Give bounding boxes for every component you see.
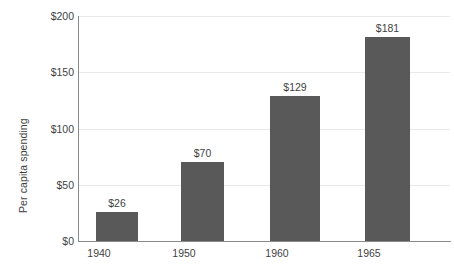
y-axis-line xyxy=(78,16,79,242)
bar-1950 xyxy=(181,162,224,241)
x-tick-label-1960: 1960 xyxy=(243,247,311,259)
y-tick-label-150: $150 xyxy=(28,67,74,78)
y-tick-label-100: $100 xyxy=(28,124,74,135)
x-tick-label-1965: 1965 xyxy=(335,247,403,259)
bar-1940 xyxy=(96,212,138,241)
x-tick-label-1950: 1950 xyxy=(150,247,218,259)
x-tick-label-1940: 1940 xyxy=(65,247,133,259)
gridline-200 xyxy=(78,16,450,17)
y-tick-label-0: $0 xyxy=(28,236,74,247)
plot-area: $26 $70 $129 $181 xyxy=(78,16,450,241)
y-axis-tick-labels: $200 $150 $100 $50 $0 xyxy=(28,0,74,277)
bar-label-1940: $26 xyxy=(86,197,148,209)
bar-1960 xyxy=(270,96,320,241)
bar-1965 xyxy=(365,37,410,241)
bar-label-1960: $129 xyxy=(264,81,326,93)
y-tick-label-50: $50 xyxy=(28,180,74,191)
bar-chart: Per capita spending $200 $150 $100 $50 $… xyxy=(0,0,454,277)
bar-label-1965: $181 xyxy=(356,22,419,34)
x-axis-line xyxy=(78,241,451,242)
bar-label-1950: $70 xyxy=(171,147,234,159)
y-tick-label-200: $200 xyxy=(28,11,74,22)
